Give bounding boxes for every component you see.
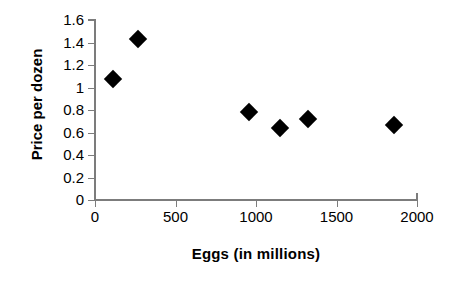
data-point-marker bbox=[299, 110, 317, 128]
y-tick-label: 0.2 bbox=[63, 170, 84, 185]
scatter-chart: Price per dozen 1.61.41.210.80.60.40.20 … bbox=[0, 0, 454, 284]
x-tick-mark bbox=[337, 201, 338, 207]
y-tick-mark bbox=[88, 133, 95, 134]
y-tick-label: 0.8 bbox=[63, 102, 84, 117]
x-tick-label: 1500 bbox=[320, 209, 353, 224]
data-point-marker bbox=[384, 115, 402, 133]
data-point-marker bbox=[240, 103, 258, 121]
x-tick-label: 500 bbox=[163, 209, 188, 224]
plot-area bbox=[95, 20, 417, 200]
y-tick-label: 1.6 bbox=[63, 12, 84, 27]
data-point-marker bbox=[271, 119, 289, 137]
y-tick-mark bbox=[88, 88, 95, 89]
y-tick-mark bbox=[88, 155, 95, 156]
y-tick-label: 1.4 bbox=[63, 35, 84, 50]
x-tick-label: 1000 bbox=[239, 209, 272, 224]
y-tick-label: 1.2 bbox=[63, 57, 84, 72]
y-tick-mark bbox=[88, 43, 95, 44]
x-tick-mark bbox=[256, 201, 257, 207]
y-tick-mark bbox=[88, 178, 95, 179]
y-tick-label: 0.6 bbox=[63, 125, 84, 140]
x-tick-mark bbox=[417, 201, 418, 207]
y-tick-label: 0.4 bbox=[63, 147, 84, 162]
x-tick-mark bbox=[95, 201, 96, 207]
x-tick-label: 2000 bbox=[400, 209, 433, 224]
x-axis-title: Eggs (in millions) bbox=[95, 245, 417, 262]
y-tick-label: 0 bbox=[76, 192, 84, 207]
x-tick-label: 0 bbox=[91, 209, 99, 224]
y-tick-mark bbox=[88, 20, 95, 21]
data-point-marker bbox=[129, 30, 147, 48]
y-tick-mark bbox=[88, 110, 95, 111]
y-tick-mark bbox=[88, 65, 95, 66]
data-point-marker bbox=[104, 69, 122, 87]
y-tick-label: 1 bbox=[76, 80, 84, 95]
x-tick-mark bbox=[176, 201, 177, 207]
y-axis-tick-labels: 1.61.41.210.80.60.40.20 bbox=[34, 0, 84, 284]
y-tick-mark bbox=[88, 200, 95, 201]
